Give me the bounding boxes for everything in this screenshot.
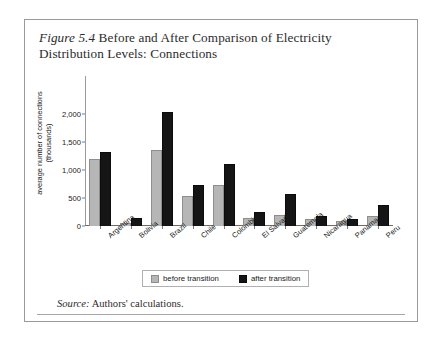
source-label: Source:: [57, 298, 90, 309]
legend-swatch-after: [239, 275, 247, 283]
x-axis-tick-mark: [162, 226, 163, 229]
x-axis-label-nicaragua: Nicaragua: [322, 233, 328, 240]
x-axis-tick-mark: [224, 226, 225, 229]
bar-after: [100, 152, 111, 226]
x-axis-tick-mark: [285, 226, 286, 229]
y-axis-tick-label: 1,500: [62, 138, 81, 147]
source-note: Source: Authors' calculations.: [57, 298, 184, 309]
figure-number: Figure 5.4: [39, 30, 95, 45]
x-axis-label-panama: Panama: [353, 233, 359, 240]
bar-after: [162, 112, 173, 226]
plot-area: 05001,0001,5002,000 ArgentinaBoliviaBraz…: [85, 114, 393, 226]
bar-before: [89, 159, 100, 226]
bar-group: [177, 185, 208, 226]
y-axis-tick-mark: [82, 114, 85, 115]
y-axis-tick-mark: [82, 142, 85, 143]
legend-entry: after transition: [239, 274, 300, 283]
x-axis-label-bolivia: Bolivia: [137, 233, 143, 240]
legend-label: before transition: [163, 274, 219, 283]
legend-label: after transition: [251, 274, 300, 283]
figure-frame: Figure 5.4 Before and After Comparison o…: [24, 19, 418, 322]
bar-before: [151, 150, 162, 226]
x-axis-label-argentina: Argentina: [106, 233, 112, 240]
source-divider: [37, 314, 405, 315]
bar-before: [213, 185, 224, 226]
bar-before: [182, 196, 193, 226]
source-text: Authors' calculations.: [92, 298, 184, 309]
y-axis-tick-label: 2,000: [62, 110, 81, 119]
legend-swatch-before: [151, 275, 159, 283]
y-axis-tick-label: 1,000: [62, 166, 81, 175]
chart-area: average number of connections (thousands…: [39, 78, 405, 278]
x-axis-label-colombia: Colombia: [230, 233, 236, 240]
x-axis-label-el-salvador: El Salvador: [260, 233, 266, 240]
chart-legend: before transitionafter transition: [142, 270, 309, 287]
y-axis-title-line-2: (thousands): [44, 78, 53, 208]
y-axis-tick-label: 0: [77, 222, 81, 231]
x-axis-tick-mark: [100, 226, 101, 229]
x-axis-tick-mark: [131, 226, 132, 229]
y-axis-tick-label: 500: [68, 194, 81, 203]
bar-group: [208, 164, 239, 226]
y-axis-title-line-1: average number of connections: [35, 78, 44, 208]
x-axis-label-peru: Peru: [384, 233, 390, 240]
x-axis-label-chile: Chile: [199, 233, 205, 240]
x-axis-tick-mark: [378, 226, 379, 229]
legend-entry: before transition: [151, 274, 219, 283]
x-axis-label-brazil: Brazil: [168, 233, 174, 240]
x-axis-tick-mark: [316, 226, 317, 229]
x-axis-tick-mark: [254, 226, 255, 229]
figure-caption: Figure 5.4 Before and After Comparison o…: [39, 30, 389, 61]
x-axis-label-guatemala: Guatemala: [291, 233, 297, 240]
bar-after: [193, 185, 204, 226]
y-axis-title: average number of connections (thousands…: [35, 78, 61, 208]
bar-group: [147, 112, 178, 226]
bar-group: [85, 152, 116, 226]
x-axis-tick-mark: [193, 226, 194, 229]
x-axis-tick-mark: [347, 226, 348, 229]
bar-after: [224, 164, 235, 226]
